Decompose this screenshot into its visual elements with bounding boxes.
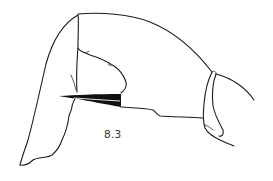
inner-detail-stroke — [71, 75, 76, 90]
collar-inner — [212, 74, 223, 136]
figure-label: 8.3 — [104, 128, 121, 140]
right-contour — [216, 74, 254, 100]
collar-outer — [203, 72, 234, 146]
left-outer-contour — [20, 15, 78, 165]
figure-illustration: 8.3 — [0, 0, 273, 181]
collar-rim — [212, 71, 216, 74]
lobe-tick-1 — [86, 51, 89, 53]
line-drawing — [0, 0, 273, 181]
upper-contour — [78, 13, 212, 72]
lower-contour — [121, 107, 203, 118]
inner-lobe-contour — [78, 48, 126, 93]
left-lower-contour — [20, 97, 76, 165]
inner-vertical-line — [77, 15, 79, 92]
